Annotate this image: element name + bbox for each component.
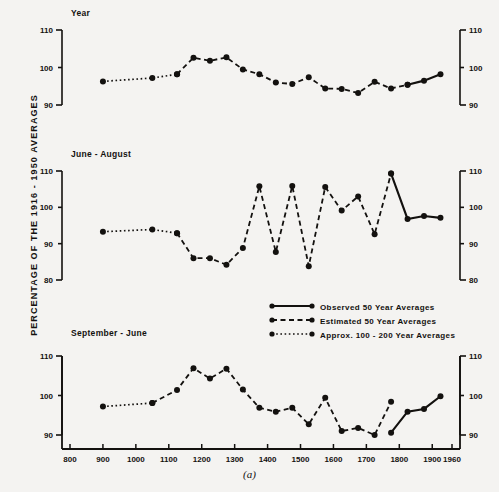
chart-svg: 1101009011010090110100908011010090801101… <box>0 0 499 492</box>
svg-text:110: 110 <box>469 26 482 35</box>
svg-text:80: 80 <box>44 276 53 285</box>
svg-text:1100: 1100 <box>160 455 178 464</box>
svg-text:110: 110 <box>469 352 482 361</box>
svg-text:1960: 1960 <box>443 455 461 464</box>
svg-text:90: 90 <box>469 101 478 110</box>
svg-text:1800: 1800 <box>390 455 408 464</box>
svg-text:100: 100 <box>40 392 54 401</box>
svg-text:90: 90 <box>44 101 53 110</box>
svg-text:900: 900 <box>96 455 110 464</box>
svg-text:80: 80 <box>469 276 478 285</box>
svg-text:100: 100 <box>40 64 54 73</box>
svg-text:1200: 1200 <box>193 455 211 464</box>
svg-text:110: 110 <box>40 352 53 361</box>
svg-text:1400: 1400 <box>259 455 277 464</box>
svg-text:100: 100 <box>469 392 483 401</box>
svg-text:110: 110 <box>40 26 53 35</box>
svg-text:1500: 1500 <box>292 455 310 464</box>
svg-text:90: 90 <box>469 240 478 249</box>
svg-text:100: 100 <box>469 203 483 212</box>
svg-text:90: 90 <box>44 240 53 249</box>
figure-container: PERCENTAGE OF THE 1916 - 1950 AVERAGES Y… <box>0 0 499 492</box>
svg-text:1700: 1700 <box>357 455 375 464</box>
svg-text:1300: 1300 <box>226 455 244 464</box>
svg-text:90: 90 <box>44 431 53 440</box>
svg-text:1900: 1900 <box>423 455 441 464</box>
svg-text:100: 100 <box>469 64 483 73</box>
svg-text:1600: 1600 <box>325 455 343 464</box>
svg-text:100: 100 <box>40 203 54 212</box>
svg-text:800: 800 <box>63 455 77 464</box>
svg-text:1000: 1000 <box>127 455 145 464</box>
svg-text:110: 110 <box>469 167 482 176</box>
svg-text:90: 90 <box>469 431 478 440</box>
svg-text:110: 110 <box>40 167 53 176</box>
